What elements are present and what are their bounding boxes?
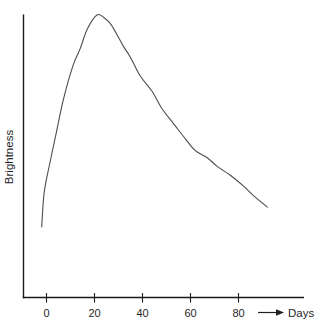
x-tick-label: 80: [232, 307, 244, 319]
x-tick-label: 40: [136, 307, 148, 319]
brightness-curve: [42, 14, 268, 226]
x-axis-label: Days: [288, 307, 314, 319]
x-axis-arrow-label-group: Days: [258, 307, 314, 319]
light-curve-chart: 020406080 Brightness Days: [0, 0, 320, 329]
x-tick-label: 0: [43, 307, 49, 319]
x-tick-label: 60: [184, 307, 196, 319]
x-tick-label: 20: [88, 307, 100, 319]
light-curve-figure: 020406080 Brightness Days: [0, 0, 320, 329]
arrow-right-icon: [276, 309, 284, 316]
y-axis-label: Brightness: [3, 130, 15, 185]
